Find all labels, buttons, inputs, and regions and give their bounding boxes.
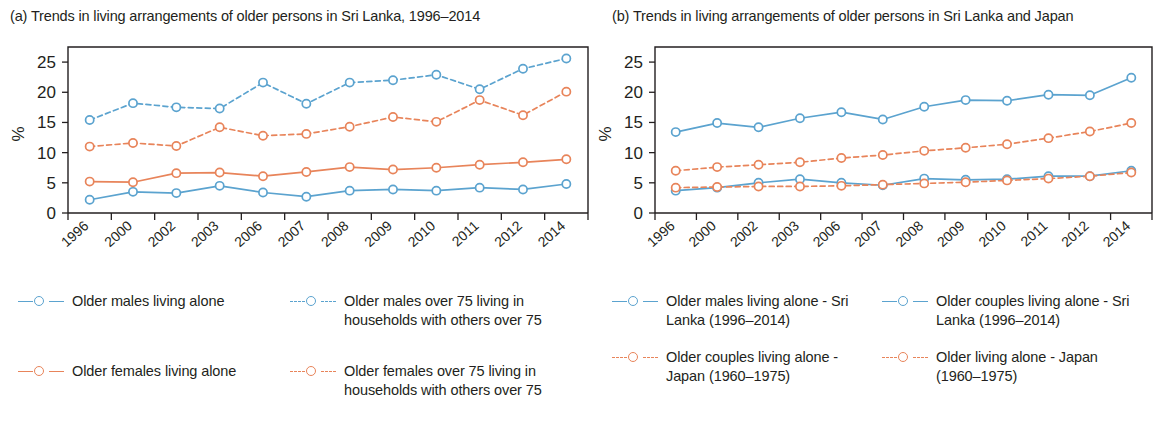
panel-b-title: (b) Trends in living arrangements of old…	[612, 8, 1073, 24]
x-tick-label: 1996	[58, 217, 92, 250]
data-point	[796, 114, 804, 122]
figure-container: (a) Trends in living arrangements of old…	[0, 0, 1157, 430]
data-point	[86, 143, 94, 151]
data-point	[713, 163, 721, 171]
legend-label: Older living alone - Japan (1960–1975)	[936, 348, 1136, 386]
data-point	[172, 103, 180, 111]
data-point	[302, 100, 310, 108]
y-tick-label: 5	[47, 174, 56, 193]
x-tick-label: 2007	[274, 217, 308, 250]
data-point	[172, 189, 180, 197]
legend-entry[interactable]: Older living alone - Japan (1960–1975)	[882, 348, 1136, 386]
legend-symbol	[882, 349, 928, 367]
legend-line-right	[321, 301, 336, 302]
legend-line-left	[882, 301, 897, 302]
data-point	[476, 161, 484, 169]
panel-b-svg: 0510152025%19962000200220032006200720082…	[600, 36, 1157, 276]
data-point	[389, 76, 397, 84]
x-tick-label: 2002	[144, 217, 178, 250]
y-tick-label: 25	[624, 53, 643, 72]
data-point	[432, 118, 440, 126]
legend-line-right	[49, 371, 64, 372]
legend-marker-circle-icon	[898, 296, 908, 306]
data-point	[302, 130, 310, 138]
data-point	[879, 151, 887, 159]
data-point	[172, 142, 180, 150]
legend-label: Older males living alone - Sri Lanka (19…	[666, 292, 866, 330]
series-line-1	[90, 159, 567, 182]
x-tick-label: 2000	[685, 217, 719, 250]
y-tick-label: 5	[634, 174, 643, 193]
series-line-3	[676, 173, 1132, 188]
legend-entry[interactable]: Older females over 75 living in househol…	[290, 362, 584, 400]
data-point	[837, 182, 845, 190]
x-tick-label: 2006	[231, 217, 265, 250]
data-point	[1044, 174, 1052, 182]
data-point	[1086, 91, 1094, 99]
y-axis-title: %	[596, 126, 615, 141]
data-point	[672, 128, 680, 136]
data-point	[796, 182, 804, 190]
panel-b: (b) Trends in living arrangements of old…	[600, 0, 1157, 430]
data-point	[129, 139, 137, 147]
y-tick-label: 20	[37, 83, 56, 102]
data-point	[389, 165, 397, 173]
legend-entry[interactable]: Older males over 75 living in households…	[290, 292, 574, 330]
legend-line-right	[643, 357, 658, 358]
x-tick-label: 2011	[1017, 217, 1050, 249]
x-tick-label: 2010	[404, 217, 438, 250]
legend-line-left	[18, 371, 33, 372]
data-point	[389, 185, 397, 193]
x-tick-label: 2008	[892, 217, 926, 250]
legend-line-right	[913, 357, 928, 358]
data-point	[962, 178, 970, 186]
legend-marker-circle-icon	[306, 366, 316, 376]
legend-entry[interactable]: Older couples living alone - Sri Lanka (…	[882, 292, 1136, 330]
series-line-2	[90, 58, 567, 120]
data-point	[346, 79, 354, 87]
data-point	[713, 183, 721, 191]
legend-entry[interactable]: Older females living alone	[18, 362, 287, 381]
data-point	[562, 155, 570, 163]
x-tick-label: 2000	[101, 217, 135, 250]
x-tick-label: 2008	[318, 217, 352, 250]
data-point	[1003, 176, 1011, 184]
data-point	[259, 79, 267, 87]
data-point	[962, 96, 970, 104]
x-tick-label: 2012	[491, 217, 525, 250]
legend-entry[interactable]: Older couples living alone - Japan (1960…	[612, 348, 871, 386]
legend-marker-circle-icon	[306, 296, 316, 306]
data-point	[796, 158, 804, 166]
y-tick-label: 10	[37, 144, 56, 163]
data-point	[129, 178, 137, 186]
data-point	[259, 132, 267, 140]
legend-symbol	[290, 363, 336, 381]
legend-symbol	[290, 293, 336, 311]
data-point	[1086, 127, 1094, 135]
data-point	[1127, 119, 1135, 127]
data-point	[920, 179, 928, 187]
y-tick-label: 25	[37, 53, 56, 72]
legend-marker-circle-icon	[628, 352, 638, 362]
legend-marker-circle-icon	[898, 352, 908, 362]
data-point	[519, 185, 527, 193]
series-line-0	[676, 78, 1132, 132]
data-point	[346, 187, 354, 195]
data-point	[129, 188, 137, 196]
data-point	[172, 169, 180, 177]
legend-line-left	[612, 301, 627, 302]
legend-entry[interactable]: Older males living alone - Sri Lanka (19…	[612, 292, 866, 330]
data-point	[962, 144, 970, 152]
data-point	[346, 123, 354, 131]
data-point	[302, 193, 310, 201]
legend-symbol	[882, 293, 928, 311]
panel-a-legend: Older males living aloneOlder males over…	[0, 284, 600, 430]
panel-a-plot: 0510152025%19962000200220032006200720082…	[0, 36, 600, 276]
y-tick-label: 15	[37, 113, 56, 132]
y-axis-title: %	[9, 126, 28, 141]
x-tick-label: 2014	[1099, 217, 1133, 250]
legend-entry[interactable]: Older males living alone	[18, 292, 287, 311]
x-tick-label: 2006	[810, 217, 844, 250]
data-point	[1003, 97, 1011, 105]
data-point	[879, 181, 887, 189]
